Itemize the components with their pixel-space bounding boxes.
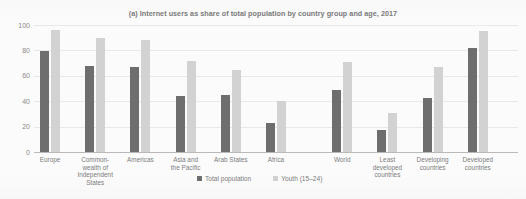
x-axis-category-label: Developing countries	[407, 156, 459, 171]
gridline	[34, 25, 518, 26]
bar-youth	[141, 40, 150, 152]
chart-legend: Total population Youth (15–24)	[197, 175, 322, 182]
legend-swatch-icon	[273, 176, 278, 181]
legend-item-total-population: Total population	[197, 175, 251, 182]
bar-youth	[232, 70, 241, 152]
legend-swatch-icon	[197, 176, 202, 181]
bar-youth	[187, 61, 196, 152]
x-axis-category-label: Americas	[114, 156, 166, 164]
y-axis-tick-label: 60	[2, 72, 30, 79]
bar-total-population	[40, 51, 49, 152]
bar-youth	[277, 101, 286, 152]
bar-youth	[96, 38, 105, 152]
gridline	[34, 101, 518, 102]
bar-youth	[388, 113, 397, 152]
chart-title: (a) Internet users as share of total pop…	[0, 9, 526, 18]
gridline	[34, 127, 518, 128]
legend-label-total-population: Total population	[205, 175, 251, 182]
y-axis-tick-label: 0	[2, 149, 30, 156]
gridline	[34, 50, 518, 51]
legend-item-youth: Youth (15–24)	[273, 175, 322, 182]
legend-label-youth: Youth (15–24)	[281, 175, 322, 182]
y-axis-tick-label: 80	[2, 47, 30, 54]
bar-total-population	[130, 67, 139, 152]
bar-total-population	[423, 98, 432, 152]
axis-baseline	[34, 152, 518, 153]
bar-youth	[479, 31, 488, 152]
gridline	[34, 76, 518, 77]
x-axis-category-label: Least developed countries	[361, 156, 413, 179]
x-axis-category-label: Europe	[24, 156, 76, 164]
y-axis-tick-label: 100	[2, 22, 30, 29]
bar-youth	[434, 67, 443, 152]
x-axis-category-label: World	[316, 156, 368, 164]
bar-total-population	[85, 66, 94, 152]
bar-total-population	[332, 90, 341, 152]
x-axis-category-label: Common- wealth of Independent States	[69, 156, 121, 186]
x-axis-category-label: Asia and the Pacific	[160, 156, 212, 171]
bar-youth	[51, 30, 60, 152]
bar-total-population	[176, 96, 185, 152]
y-axis-tick-label: 20	[2, 123, 30, 130]
chart-container: (a) Internet users as share of total pop…	[0, 0, 526, 199]
bar-total-population	[221, 95, 230, 152]
x-axis-category-label: Africa	[250, 156, 302, 164]
x-axis-category-label: Arab States	[205, 156, 257, 164]
bar-total-population	[266, 123, 275, 152]
x-axis-category-label: Developed countries	[452, 156, 504, 171]
y-axis-tick-label: 40	[2, 98, 30, 105]
bar-total-population	[377, 130, 386, 152]
plot-area: 020406080100	[34, 25, 518, 152]
bar-total-population	[468, 48, 477, 152]
bar-youth	[343, 62, 352, 152]
